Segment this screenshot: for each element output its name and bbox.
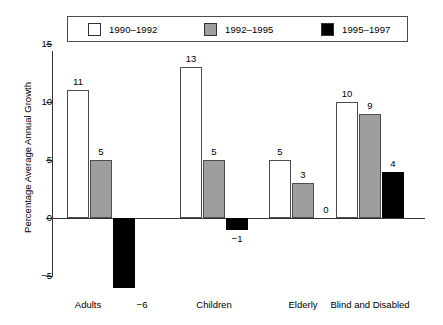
bar-value-label: 10 (332, 88, 362, 99)
y-tick-0: 0 (0, 218, 52, 219)
bar-value-label: 11 (63, 76, 93, 87)
bar-value-label: 3 (288, 169, 318, 180)
y-tick-label: 5 (10, 154, 52, 165)
y-tick-10: 10 (0, 102, 52, 103)
bar-value-label: 9 (355, 100, 385, 111)
category-label-1: Children (196, 299, 231, 310)
bar-value-label: −1 (222, 233, 252, 244)
bar-3-2 (382, 172, 404, 218)
bar-chart: 1990–1992 1992–1995 1995–1997 Percentage… (0, 0, 443, 325)
category-label-2: Elderly (288, 299, 317, 310)
bar-value-label: 5 (86, 146, 116, 157)
plot-area: 151050−5 11135105539−6−104 AdultsChildre… (0, 0, 443, 325)
y-tick-15: 15 (0, 44, 52, 45)
bar-value-label: −6 (127, 299, 157, 310)
bar-value-label: 4 (378, 158, 408, 169)
category-label-3: Blind and Disabled (330, 299, 409, 310)
y-tick-label: 0 (10, 212, 52, 223)
bar-value-label: 5 (265, 146, 295, 157)
y-tick-5: 5 (0, 160, 52, 161)
bar-1-0 (180, 67, 202, 218)
bar-0-2 (113, 218, 135, 288)
bar-0-1 (90, 160, 112, 218)
bar-3-0 (336, 102, 358, 218)
category-label-0: Adults (75, 299, 101, 310)
y-tick-label: −5 (10, 270, 52, 281)
y-tick-label: 10 (10, 96, 52, 107)
bar-value-label: 5 (199, 146, 229, 157)
bar-1-1 (203, 160, 225, 218)
bar-value-label: 13 (176, 53, 206, 64)
bar-value-label: 0 (311, 204, 341, 215)
bar-1-2 (226, 218, 248, 230)
y-axis-line (52, 51, 53, 277)
y-tick-label: 15 (10, 38, 52, 49)
y-tick--5: −5 (0, 276, 52, 277)
